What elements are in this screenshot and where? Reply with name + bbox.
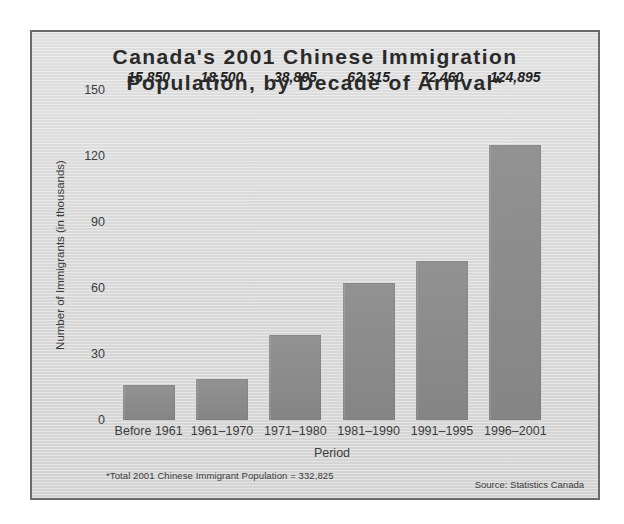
chart-footnote: *Total 2001 Chinese Immigrant Population… [106, 470, 334, 481]
x-axis-tick-labels: Before 1961 1961–1970 1971–1980 1981–199… [112, 424, 552, 438]
chart-title-line-2: Population, by Decade of Arrival* [32, 70, 598, 96]
bar-slot-1961-1970[interactable]: 18,500 [185, 90, 258, 420]
bar-slot-1996-2001[interactable]: 124,895 [479, 90, 552, 420]
chart-title-line-1: Canada's 2001 Chinese Immigration [32, 44, 598, 70]
bar-rect[interactable] [196, 379, 248, 420]
chart-figure-frame: Canada's 2001 Chinese Immigration Popula… [30, 30, 600, 500]
y-tick-label-30: 30 [91, 347, 105, 361]
y-tick-label-0: 0 [98, 413, 105, 427]
x-tick-label-1991-1995: 1991–1995 [405, 424, 478, 438]
bar-slot-before-1961[interactable]: 15,850 [112, 90, 185, 420]
x-tick-label-1971-1980: 1971–1980 [259, 424, 332, 438]
bar-rect[interactable] [416, 261, 468, 420]
bar-slot-1991-1995[interactable]: 72,460 [405, 90, 478, 420]
chart-title: Canada's 2001 Chinese Immigration Popula… [32, 44, 598, 96]
bar-rect[interactable] [123, 385, 175, 420]
x-axis-title: Period [112, 446, 552, 460]
x-tick-label-1961-1970: 1961–1970 [185, 424, 258, 438]
plot-area: 0 30 60 90 120 150 15,850 18,500 38,805 … [112, 90, 552, 420]
bar-rect[interactable] [269, 335, 321, 420]
x-tick-label-1996-2001: 1996–2001 [479, 424, 552, 438]
bar-rect[interactable] [343, 283, 395, 420]
y-tick-label-90: 90 [91, 215, 105, 229]
y-tick-label-120: 120 [84, 149, 105, 163]
x-tick-label-before-1961: Before 1961 [112, 424, 185, 438]
y-tick-label-60: 60 [91, 281, 105, 295]
x-tick-label-1981-1990: 1981–1990 [332, 424, 405, 438]
bar-slot-1981-1990[interactable]: 62,315 [332, 90, 405, 420]
bar-rect[interactable] [489, 145, 541, 420]
bar-series: 15,850 18,500 38,805 62,315 72,460 124,8 [112, 90, 552, 420]
source-credit: Source: Statistics Canada [475, 479, 584, 490]
bar-slot-1971-1980[interactable]: 38,805 [259, 90, 332, 420]
y-axis-title: Number of Immigrants (in thousands) [54, 90, 72, 420]
